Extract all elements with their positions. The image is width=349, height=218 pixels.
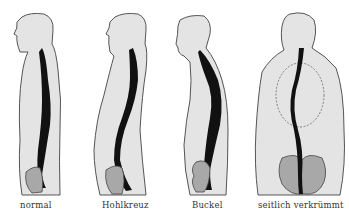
figure-skoliose [255, 13, 344, 195]
label-seitlich-verkruemmt: seitlich verkrümmt [258, 200, 344, 210]
figure-hohlkreuz [94, 13, 147, 195]
label-normal: normal [20, 200, 52, 210]
label-hohlkreuz: Hohlkreuz [102, 200, 149, 210]
label-buckel: Buckel [192, 200, 223, 210]
figure-normal [14, 13, 61, 195]
figure-buckel [176, 16, 228, 196]
spine-diagram [0, 0, 349, 218]
